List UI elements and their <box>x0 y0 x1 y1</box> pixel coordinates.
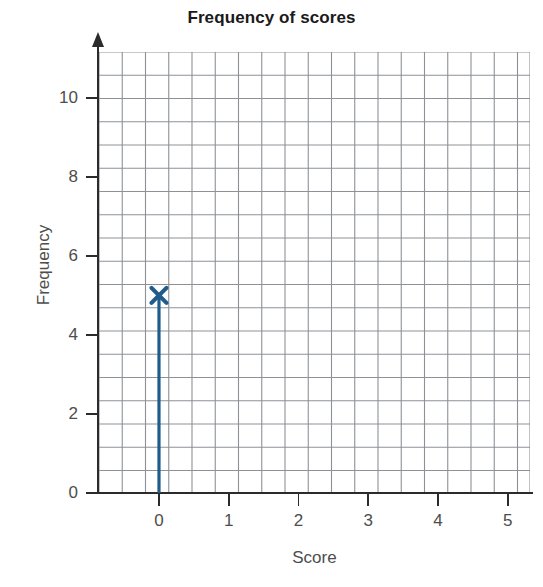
y-axis-title: Frequency <box>34 205 54 325</box>
x-tick-label: 0 <box>139 512 179 529</box>
x-tick-label: 4 <box>418 512 458 529</box>
x-tick <box>158 494 160 506</box>
y-tick <box>86 492 99 494</box>
y-tick <box>86 413 99 415</box>
y-tick-label: 8 <box>18 168 78 185</box>
grid-lines <box>99 52 530 493</box>
x-tick-label: 5 <box>488 512 528 529</box>
x-tick-label: 3 <box>348 512 388 529</box>
y-axis-line <box>97 44 99 494</box>
x-tick <box>367 494 369 506</box>
x-tick <box>228 494 230 506</box>
y-tick-label: 0 <box>18 484 78 501</box>
x-tick-label: 2 <box>278 512 318 529</box>
y-tick <box>86 97 99 99</box>
chart-title: Frequency of scores <box>0 8 543 28</box>
y-tick <box>86 255 99 257</box>
x-axis-line <box>86 492 533 494</box>
y-axis-arrow-icon <box>92 32 104 47</box>
y-tick <box>86 334 99 336</box>
y-tick-label: 2 <box>18 405 78 422</box>
y-tick-label: 10 <box>18 89 78 106</box>
x-tick <box>298 494 300 506</box>
y-tick <box>86 176 99 178</box>
x-tick <box>507 494 509 506</box>
x-axis-title: Score <box>99 548 530 568</box>
x-tick-label: 1 <box>209 512 249 529</box>
plot-area <box>99 52 530 493</box>
frequency-chart: Frequency of scores 0246810012345 Score … <box>0 0 543 587</box>
y-tick-label: 4 <box>18 326 78 343</box>
x-tick <box>437 494 439 506</box>
